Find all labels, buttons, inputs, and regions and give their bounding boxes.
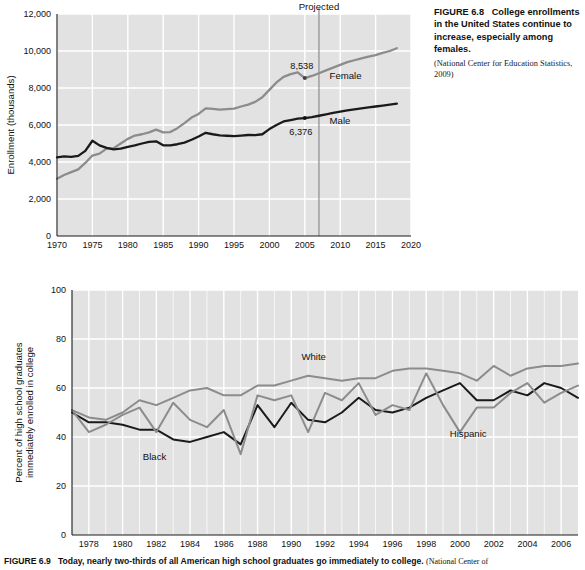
caption-6-9-text: Today, nearly two-thirds of all American…: [58, 556, 424, 566]
chart-hs-graduates-enrolled: 0204060801001978198019821984198619881990…: [0, 268, 585, 570]
y-axis-tick-label: 100: [51, 285, 66, 295]
caption-figure-6-8: FIGURE 6.8 College enrollments in the Un…: [434, 6, 580, 80]
annotation-male-value: 6,376: [289, 127, 312, 137]
x-axis-tick-label: 2006: [551, 539, 571, 549]
x-axis-tick-label: 1994: [349, 539, 369, 549]
x-axis-tick-label: 2005: [295, 240, 315, 250]
x-axis-tick-label: 1998: [416, 539, 436, 549]
x-axis-tick-label: 1984: [180, 539, 200, 549]
x-axis-tick-label: 1982: [146, 539, 166, 549]
series-label-female: Female: [330, 70, 362, 81]
x-axis-tick-label: 1992: [315, 539, 335, 549]
caption-figure-6-9: FIGURE 6.9 Today, nearly two-thirds of a…: [4, 556, 585, 570]
y-axis-title: Enrollment (thousands): [5, 75, 16, 174]
projected-label: Projected: [299, 1, 340, 12]
y-axis-tick-label: 8,000: [28, 83, 51, 93]
y-axis-title: Percent of high school graduates: [13, 342, 24, 482]
caption-6-9-label: FIGURE 6.9: [4, 556, 51, 566]
x-axis-tick-label: 1990: [189, 240, 209, 250]
x-axis-tick-label: 1980: [113, 539, 133, 549]
series-label-hispanic: Hispanic: [450, 428, 487, 439]
annotation-female-value: 8,538: [290, 61, 313, 71]
y-axis-title: immediately enrolled in college: [24, 347, 35, 478]
caption-6-8-label: FIGURE 6.8: [434, 7, 484, 17]
y-axis-tick-label: 10,000: [23, 46, 51, 56]
y-axis-tick-label: 60: [56, 383, 66, 393]
data-point-female: [303, 76, 307, 80]
x-axis-tick-label: 2000: [259, 240, 279, 250]
y-axis-tick-label: 2,000: [28, 194, 51, 204]
x-axis-tick-label: 1986: [214, 539, 234, 549]
y-axis-tick-label: 12,000: [23, 9, 51, 19]
x-axis-tick-label: 2004: [517, 539, 537, 549]
x-axis-tick-label: 1978: [79, 539, 99, 549]
x-axis-tick-label: 2015: [366, 240, 386, 250]
x-axis-tick-label: 1988: [248, 539, 268, 549]
x-axis-tick-label: 2002: [484, 539, 504, 549]
x-axis-tick-label: 2020: [401, 240, 421, 250]
x-axis-tick-label: 1970: [47, 240, 67, 250]
y-axis-tick-label: 0: [61, 530, 66, 540]
x-axis-tick-label: 1995: [224, 240, 244, 250]
caption-6-9-source: (National Center of: [426, 557, 488, 566]
x-axis-tick-label: 1990: [281, 539, 301, 549]
x-axis-tick-label: 2010: [330, 240, 350, 250]
y-axis-tick-label: 6,000: [28, 120, 51, 130]
series-label-white: White: [301, 351, 326, 362]
x-axis-tick-label: 1996: [382, 539, 402, 549]
figure-page: 02,0004,0006,0008,00010,00012,0001970197…: [0, 0, 585, 570]
x-axis-tick-label: 1975: [82, 240, 102, 250]
x-axis-tick-label: 2000: [450, 539, 470, 549]
series-label-male: Male: [330, 115, 351, 126]
y-axis-tick-label: 20: [56, 481, 66, 491]
y-axis-tick-label: 80: [56, 334, 66, 344]
caption-6-8-source: (National Center for Education Statistic…: [434, 58, 580, 81]
y-axis-tick-label: 40: [56, 432, 66, 442]
x-axis-tick-label: 1985: [153, 240, 173, 250]
x-axis-tick-label: 1980: [118, 240, 138, 250]
series-label-black: Black: [143, 451, 167, 462]
y-axis-tick-label: 4,000: [28, 157, 51, 167]
data-point-male: [303, 116, 307, 120]
figure-6-9: 0204060801001978198019821984198619881990…: [0, 268, 585, 570]
